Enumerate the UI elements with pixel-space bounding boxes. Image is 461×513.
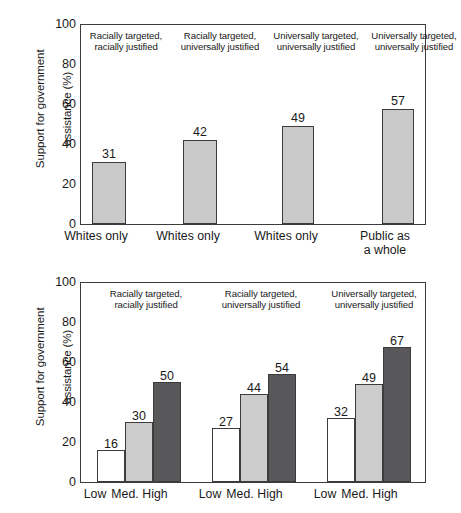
bottom-plot-area: Racially targeted, racially justified Ra… — [80, 282, 426, 483]
bar-g2-high — [268, 374, 296, 483]
top-ytick-60: 60 — [48, 98, 76, 110]
bottom-ytick-60: 60 — [48, 356, 76, 368]
bottom-grouped-bar-chart: Support for government assistance (%) 10… — [0, 258, 445, 513]
top-bar-chart: Support for government assistance (%) 10… — [0, 0, 445, 258]
bar-value-30: 30 — [124, 410, 154, 423]
bar-value-67: 67 — [382, 335, 412, 348]
top-cat-label-4: Public as a whole — [337, 230, 433, 257]
bottom-xtick-g3-low: Low — [311, 488, 339, 502]
bottom-ytick-20: 20 — [48, 436, 76, 448]
bar-g1-high — [153, 382, 181, 483]
bar-value-50: 50 — [152, 370, 182, 383]
bar-whites-racially-universally — [183, 140, 217, 224]
bar-value-42: 42 — [182, 126, 218, 139]
bottom-ytick-0: 0 — [48, 476, 76, 488]
bar-g3-high — [383, 347, 411, 482]
top-ytick-40: 40 — [48, 138, 76, 150]
bottom-xtick-g2-med: Med. — [224, 488, 256, 502]
bottom-panel-note-2: Racially targeted, universally justified — [209, 288, 313, 310]
bottom-xtick-g3-high: High — [369, 488, 401, 502]
bottom-xtick-g3-med: Med. — [339, 488, 371, 502]
bar-public-universally-universally — [382, 109, 414, 224]
bottom-xtick-g2-low: Low — [196, 488, 224, 502]
bottom-ytick-80: 80 — [48, 316, 76, 328]
bottom-ytick-100: 100 — [48, 276, 76, 288]
bottom-panel-note-1: Racially targeted, racially justified — [96, 288, 196, 310]
top-panel-note-4: Universally targeted, universally justif… — [367, 30, 461, 52]
bar-value-54: 54 — [267, 362, 297, 375]
bottom-xtick-g1-high: High — [139, 488, 171, 502]
top-ytick-100: 100 — [48, 18, 76, 30]
bar-g1-med — [125, 422, 153, 482]
bar-g1-low — [97, 450, 125, 482]
bar-value-31: 31 — [91, 148, 127, 161]
top-plot-area: Racially targeted, racially justified Ra… — [80, 24, 426, 225]
bottom-xtick-g1-med: Med. — [109, 488, 141, 502]
top-cat-label-3: Whites only — [238, 230, 334, 244]
top-panel-note-2: Racially targeted, universally justified — [174, 30, 266, 52]
bar-value-32: 32 — [326, 406, 356, 419]
bar-whites-universally-universally — [282, 126, 314, 225]
bar-g3-low — [327, 418, 355, 482]
bar-g3-med — [355, 384, 383, 483]
bottom-panel-note-3: Universally targeted, universally justif… — [321, 288, 427, 310]
bar-g2-low — [212, 428, 240, 482]
top-cat-label-1: Whites only — [48, 230, 144, 244]
top-ytick-20: 20 — [48, 178, 76, 190]
bottom-ytick-40: 40 — [48, 396, 76, 408]
bar-value-57: 57 — [380, 95, 416, 108]
bottom-xtick-g1-low: Low — [81, 488, 109, 502]
top-panel-note-1: Racially targeted, racially justified — [83, 30, 169, 52]
bar-value-16: 16 — [96, 438, 126, 451]
top-y-axis-title-line1: Support for government — [34, 50, 46, 169]
bar-value-49: 49 — [280, 112, 316, 125]
bottom-xtick-g2-high: High — [254, 488, 286, 502]
bar-value-49: 49 — [354, 372, 384, 385]
top-ytick-80: 80 — [48, 58, 76, 70]
bottom-y-axis-title-line1: Support for government — [34, 308, 46, 427]
bar-value-27: 27 — [211, 416, 241, 429]
top-cat-label-2: Whites only — [140, 230, 236, 244]
top-panel-note-3: Universally targeted, universally justif… — [269, 30, 363, 52]
bar-whites-racially-racially — [92, 162, 126, 224]
bar-g2-med — [240, 394, 268, 482]
bar-value-44: 44 — [239, 382, 269, 395]
